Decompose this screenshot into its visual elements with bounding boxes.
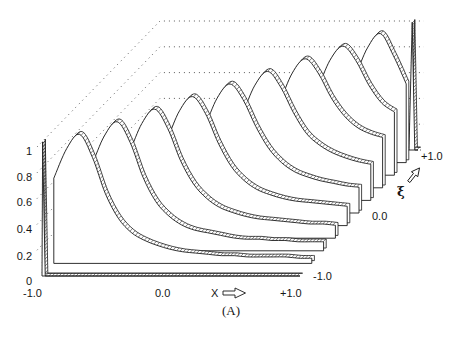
y-tick-label-0-2: 0.2 (2, 251, 32, 262)
hollow-arrow-right-icon (222, 287, 247, 299)
hollow-arrow-up-right-icon (404, 165, 424, 185)
y-tick-label-0: 0 (2, 276, 32, 287)
y-tick-label-1: 1 (2, 146, 32, 157)
figure-caption: (A) (222, 304, 240, 317)
x-tick-label-min: -1.0 (23, 288, 42, 299)
waterfall-plot (0, 0, 459, 355)
x-tick-label-mid: 0.0 (155, 288, 170, 299)
figure-panel: 1 0.8 0.6 0.4 0.2 0 -1.0 0.0 +1.0 X -1.0… (0, 0, 459, 355)
x-axis-label: X (211, 288, 218, 299)
x-tick-label-max: +1.0 (280, 288, 302, 299)
xi-axis-label: ξ (397, 185, 405, 198)
xi-tick-label-mid: 0.0 (372, 211, 387, 222)
y-tick-label-0-6: 0.6 (2, 197, 32, 208)
y-tick-label-0-4: 0.4 (2, 224, 32, 235)
curve-slices (42, 19, 421, 276)
xi-tick-label-min: -1.0 (313, 271, 332, 282)
y-tick-label-0-8: 0.8 (2, 172, 32, 183)
xi-tick-label-max: +1.0 (421, 151, 443, 162)
